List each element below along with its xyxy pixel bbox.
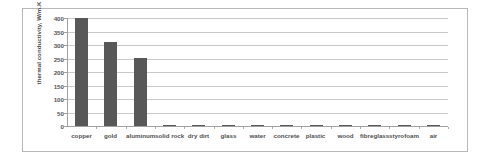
y-axis-tick-labels: 400350300250200150100500 bbox=[39, 18, 64, 126]
bar-series bbox=[67, 18, 448, 126]
y-axis-tick-mark bbox=[64, 86, 67, 87]
x-axis-tick-label: aluminum bbox=[126, 131, 155, 140]
bar bbox=[192, 125, 205, 126]
y-axis-tick-label: 350 bbox=[42, 29, 64, 36]
x-axis-tick-label: dry dirt bbox=[184, 131, 213, 140]
bar bbox=[427, 125, 440, 126]
x-axis-tick-label: solid rock bbox=[155, 131, 184, 140]
y-axis-tick-mark bbox=[64, 99, 67, 100]
x-axis-tick-mark bbox=[419, 127, 420, 129]
x-axis-tick-label: air bbox=[419, 131, 448, 140]
bar bbox=[251, 125, 264, 126]
bar bbox=[398, 125, 411, 126]
chart-frame: thermal conductivity, W/m.K 400350300250… bbox=[22, 8, 468, 152]
bar bbox=[310, 125, 323, 126]
y-axis-tick-mark bbox=[64, 32, 67, 33]
x-axis-tick-label: concrete bbox=[272, 131, 301, 140]
x-axis-tick-mark bbox=[96, 127, 97, 129]
x-axis-tick-label: copper bbox=[67, 131, 96, 140]
y-axis-tick-label: 400 bbox=[42, 15, 64, 22]
bar bbox=[163, 125, 176, 126]
bar bbox=[222, 125, 235, 126]
y-axis-tick-label: 0 bbox=[42, 123, 64, 130]
x-axis-tick-mark bbox=[243, 127, 244, 129]
x-axis-tick-mark bbox=[272, 127, 273, 129]
bar bbox=[75, 18, 88, 126]
chart-figure: thermal conductivity, W/m.K 400350300250… bbox=[0, 0, 485, 163]
y-axis-tick-mark bbox=[64, 113, 67, 114]
bar bbox=[134, 58, 147, 126]
y-axis-tick-mark bbox=[64, 126, 67, 127]
x-axis-tick-label: plastic bbox=[301, 131, 330, 140]
y-axis-tick-label: 250 bbox=[42, 56, 64, 63]
x-axis-tick-label: wood bbox=[331, 131, 360, 140]
y-axis-tick-label: 150 bbox=[42, 83, 64, 90]
x-axis-tick-label: water bbox=[243, 131, 272, 140]
x-axis-tick-label: gold bbox=[96, 131, 125, 140]
bar bbox=[104, 42, 117, 126]
y-axis-tick-mark bbox=[64, 72, 67, 73]
x-axis-tick-mark bbox=[126, 127, 127, 129]
x-axis-tick-mark bbox=[331, 127, 332, 129]
x-axis-tick-label: fibreglass bbox=[360, 131, 389, 140]
bar bbox=[339, 125, 352, 126]
x-axis-tick-label: glass bbox=[214, 131, 243, 140]
x-axis-line bbox=[67, 126, 448, 127]
x-axis-tick-mark bbox=[448, 127, 449, 129]
y-axis-tick-mark bbox=[64, 18, 67, 19]
y-axis-tick-label: 200 bbox=[42, 69, 64, 76]
y-axis-tick-label: 100 bbox=[42, 96, 64, 103]
x-axis-tick-labels: coppergoldaluminumsolid rockdry dirtglas… bbox=[67, 131, 448, 143]
y-axis-tick-mark bbox=[64, 45, 67, 46]
x-axis-tick-mark bbox=[155, 127, 156, 129]
bar bbox=[280, 125, 293, 126]
y-axis-tick-label: 50 bbox=[42, 110, 64, 117]
x-axis-tick-mark bbox=[301, 127, 302, 129]
x-axis-tick-mark bbox=[184, 127, 185, 129]
x-axis-tick-mark bbox=[389, 127, 390, 129]
y-axis-tick-label: 300 bbox=[42, 42, 64, 49]
bar bbox=[368, 125, 381, 126]
x-axis-tick-mark bbox=[214, 127, 215, 129]
x-axis-tick-label: styrofoam bbox=[389, 131, 418, 140]
y-axis-tick-mark bbox=[64, 59, 67, 60]
x-axis-tick-mark bbox=[360, 127, 361, 129]
